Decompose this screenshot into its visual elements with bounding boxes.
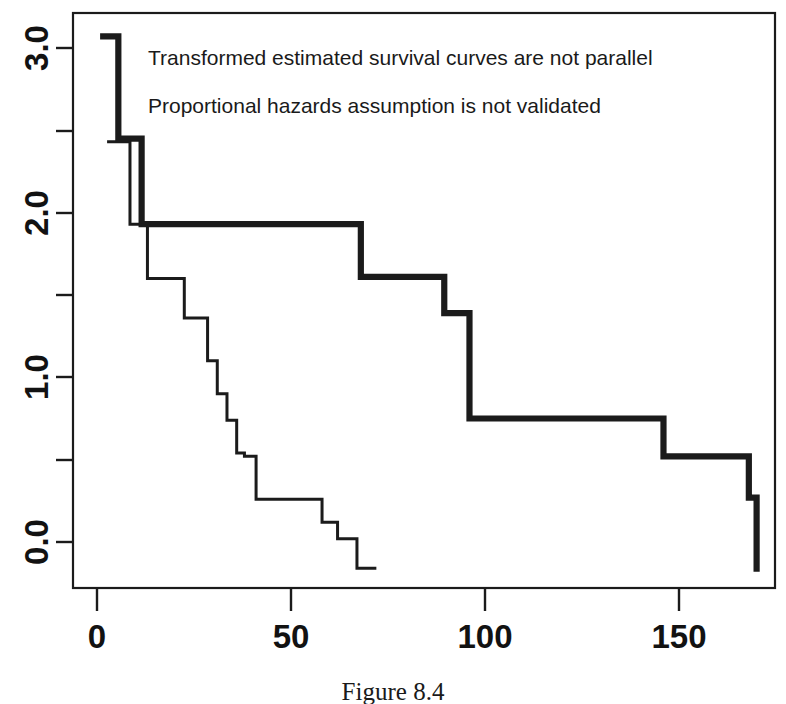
x-tick-label-50: 50: [273, 618, 310, 655]
y-tick-label-3-0: 3.0: [18, 25, 55, 71]
y-tick-label-0-0: 0.0: [18, 519, 55, 565]
x-tick-label-0: 0: [88, 618, 106, 655]
annotation-line-1: Transformed estimated survival curves ar…: [148, 46, 653, 69]
x-axis-ticks: [97, 588, 679, 611]
annotation-line-2: Proportional hazards assumption is not v…: [148, 94, 601, 117]
survival-plot-chart: 3.0 2.0 1.0 0.0 0 50 100 150 Transformed…: [0, 0, 786, 704]
figure-container: 3.0 2.0 1.0 0.0 0 50 100 150 Transformed…: [0, 0, 786, 704]
x-tick-label-150: 150: [651, 618, 706, 655]
x-axis-tick-labels: 0 50 100 150: [88, 618, 707, 655]
x-tick-label-100: 100: [457, 618, 512, 655]
y-tick-label-2-0: 2.0: [18, 190, 55, 236]
y-tick-label-1-0: 1.0: [18, 354, 55, 400]
y-axis-tick-labels: 3.0 2.0 1.0 0.0: [18, 25, 55, 565]
survival-curve-group-2: [107, 142, 376, 568]
y-axis-ticks: [56, 48, 73, 542]
figure-caption: Figure 8.4: [342, 678, 445, 704]
